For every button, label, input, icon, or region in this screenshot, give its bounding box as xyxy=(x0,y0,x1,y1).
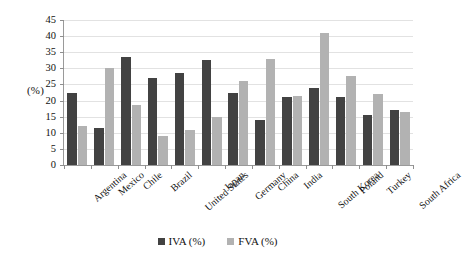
bar-fva xyxy=(346,76,356,165)
y-tick-label: 5 xyxy=(30,144,56,155)
x-tick-mark xyxy=(118,165,119,169)
bar-fva xyxy=(400,112,410,165)
x-tick-mark xyxy=(225,165,226,169)
x-axis-label: Brazil xyxy=(169,170,194,194)
bar-iva xyxy=(309,88,319,165)
x-tick-mark xyxy=(306,165,307,169)
bar-iva xyxy=(148,78,158,165)
bar-group xyxy=(306,20,333,165)
x-tick-mark xyxy=(171,165,172,169)
bar-fva xyxy=(105,68,115,165)
legend-label: FVA (%) xyxy=(238,236,277,247)
bar-fva xyxy=(132,105,142,165)
bar-fva xyxy=(78,126,88,165)
x-tick-mark xyxy=(359,165,360,169)
y-tick-label: 25 xyxy=(30,79,56,90)
x-axis-label: Chile xyxy=(141,170,164,192)
y-tick-label: 0 xyxy=(30,160,56,171)
bar-iva xyxy=(67,93,77,166)
y-tick-label: 20 xyxy=(30,96,56,107)
bar-group xyxy=(252,20,279,165)
x-tick-mark xyxy=(145,165,146,169)
x-axis-label: Poland xyxy=(358,170,386,196)
x-tick-mark xyxy=(64,165,65,169)
bar-fva xyxy=(320,33,330,165)
bar-group xyxy=(64,20,91,165)
bar-iva xyxy=(390,110,400,165)
legend-item[interactable]: FVA (%) xyxy=(227,236,277,247)
bar-iva xyxy=(282,97,292,165)
x-axis-label: India xyxy=(302,170,324,191)
bar-iva xyxy=(228,93,238,166)
bar-iva xyxy=(94,128,104,165)
legend-swatch-icon xyxy=(227,238,234,245)
plot-area xyxy=(63,20,413,166)
x-tick-mark xyxy=(386,165,387,169)
bar-fva xyxy=(373,94,383,165)
bar-group xyxy=(359,20,386,165)
y-tick-label: 40 xyxy=(30,31,56,42)
x-tick-mark xyxy=(332,165,333,169)
bar-group xyxy=(279,20,306,165)
bar-fva xyxy=(239,81,249,165)
legend-item[interactable]: IVA (%) xyxy=(158,236,206,247)
x-axis-label: Turkey xyxy=(385,170,413,196)
bar-iva xyxy=(202,60,212,165)
y-tick-label: 10 xyxy=(30,128,56,139)
y-tick-label: 35 xyxy=(30,47,56,58)
chart-legend: IVA (%)FVA (%) xyxy=(0,236,435,247)
x-tick-mark xyxy=(413,165,414,169)
bar-fva xyxy=(266,59,276,165)
bar-group xyxy=(332,20,359,165)
bar-fva xyxy=(293,96,303,165)
x-tick-mark xyxy=(198,165,199,169)
legend-label: IVA (%) xyxy=(169,236,206,247)
legend-swatch-icon xyxy=(158,238,165,245)
bar-iva xyxy=(336,97,346,165)
bar-group xyxy=(145,20,172,165)
y-tick-label: 15 xyxy=(30,112,56,123)
bar-group xyxy=(198,20,225,165)
bar-iva xyxy=(255,120,265,165)
x-axis-label: South Africa xyxy=(417,170,462,211)
bar-group xyxy=(171,20,198,165)
bar-iva xyxy=(175,73,185,165)
x-tick-mark xyxy=(91,165,92,169)
bar-iva xyxy=(363,115,373,165)
bar-iva xyxy=(121,57,131,165)
bar-fva xyxy=(158,136,168,165)
bar-group xyxy=(386,20,413,165)
bar-fva xyxy=(185,130,195,165)
y-tick-label: 45 xyxy=(30,15,56,26)
x-tick-mark xyxy=(252,165,253,169)
bar-fva xyxy=(212,117,222,165)
y-tick-label: 30 xyxy=(30,63,56,74)
bar-group xyxy=(118,20,145,165)
bar-group xyxy=(91,20,118,165)
bar-group xyxy=(225,20,252,165)
